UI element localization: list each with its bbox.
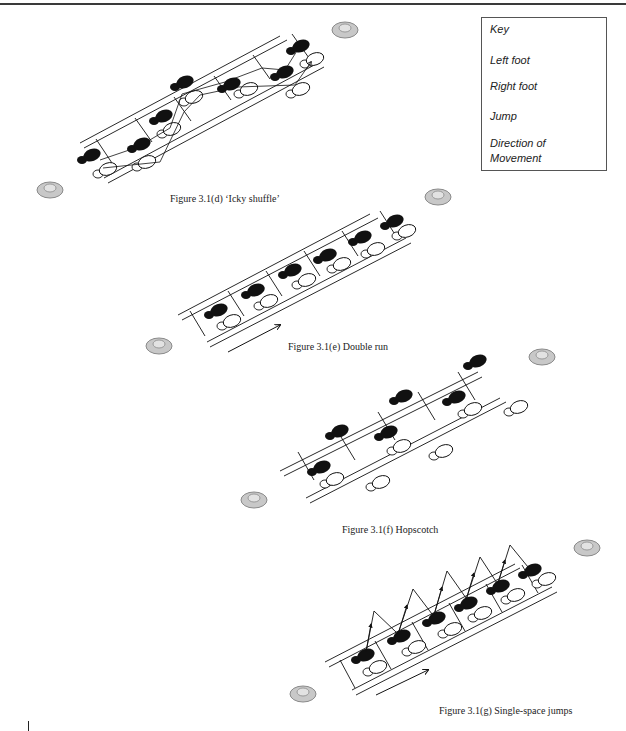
figure-hopscotch bbox=[241, 349, 555, 508]
key-right-foot-label: Right foot bbox=[490, 80, 537, 92]
figure-single-space-jumps bbox=[290, 540, 600, 702]
direction-arrow-icon bbox=[228, 325, 280, 352]
key-jump-label: Jump bbox=[490, 110, 517, 122]
key-left-foot-label: Left foot bbox=[490, 54, 530, 66]
legend-key: Key Left foot Right foot Jump Direction … bbox=[481, 17, 607, 171]
caption-figure-e: Figure 3.1(e) Double run bbox=[288, 341, 388, 352]
key-title: Key bbox=[490, 23, 509, 35]
key-direction-label: Direction of bbox=[490, 137, 546, 149]
margin-mark bbox=[28, 721, 29, 731]
key-direction-label-2: Movement bbox=[490, 152, 541, 164]
caption-figure-d: Figure 3.1(d) ‘Icky shuffle’ bbox=[170, 193, 280, 204]
caption-figure-g: Figure 3.1(g) Single-space jumps bbox=[439, 705, 572, 716]
figure-icky-shuffle bbox=[37, 22, 358, 198]
figure-double-run bbox=[146, 189, 451, 354]
caption-figure-f: Figure 3.1(f) Hopscotch bbox=[342, 524, 438, 535]
